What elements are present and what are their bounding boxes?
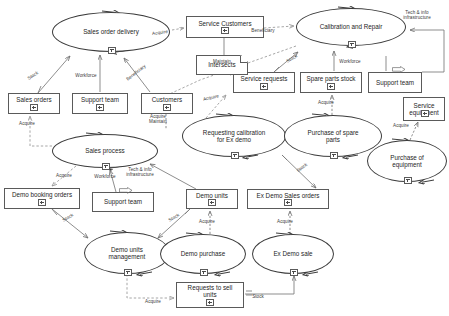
process-label: Calibration and Repair <box>314 23 389 30</box>
object-support-team-service[interactable]: Support team <box>368 72 422 93</box>
expand-marker[interactable] <box>421 110 429 117</box>
object-demo-booking-orders[interactable]: Demo booking orders <box>4 188 80 209</box>
expand-marker[interactable] <box>327 83 335 90</box>
expand-marker[interactable] <box>200 269 208 276</box>
expand-marker[interactable] <box>404 177 412 184</box>
note-intersects[interactable]: Intersects <box>196 55 248 75</box>
right-arrow-icon <box>119 180 133 187</box>
expand-marker[interactable] <box>290 269 298 276</box>
edge-label-acquire: Acquire <box>270 219 300 224</box>
expand-marker[interactable] <box>260 83 268 90</box>
process-purchase-of-spare-parts[interactable]: Purchase of spare parts <box>284 115 382 157</box>
expand-marker[interactable] <box>284 199 292 206</box>
expand-marker[interactable] <box>124 269 132 276</box>
expand-marker[interactable] <box>163 104 171 111</box>
expand-marker[interactable] <box>108 47 116 54</box>
process-label: Sales order delivery <box>77 28 145 35</box>
expand-marker[interactable] <box>38 199 46 206</box>
expand-marker[interactable] <box>102 163 110 170</box>
right-arrow-icon <box>392 59 406 66</box>
note-label: Intersects <box>208 61 235 68</box>
process-label: Sales process <box>79 147 131 154</box>
object-label: Spare parts stock <box>307 75 356 82</box>
expand-marker[interactable] <box>208 199 216 206</box>
process-demo-purchase[interactable]: Demo purchase <box>160 234 246 274</box>
object-support-team-sales[interactable]: Support team <box>72 93 128 114</box>
process-label: Demo purchase <box>175 250 231 257</box>
object-spare-parts-stock[interactable]: Spare parts stock <box>300 72 362 93</box>
edge-label-workforce: Workforce <box>330 59 370 64</box>
object-label: Support team <box>376 79 414 86</box>
object-label: Service Customers <box>198 20 251 27</box>
object-label: Sales orders <box>16 96 51 103</box>
object-label: Ex Demo Sales orders <box>257 192 320 199</box>
object-service-equipment[interactable]: Service equipment <box>403 97 445 121</box>
edge-label-beneficiary: Beneficiary <box>244 28 282 33</box>
object-requests-to-sell-units[interactable]: Requests to sell units <box>176 282 244 308</box>
edge-label-acquire: Acquire <box>386 123 416 128</box>
process-label: Purchase of spare parts <box>301 129 364 144</box>
object-label: Support team <box>104 198 142 205</box>
edge-label-stock: Stock <box>244 294 272 299</box>
object-label: Support team <box>81 96 119 103</box>
expand-marker[interactable] <box>348 41 356 48</box>
process-calibration-and-repair[interactable]: Calibration and Repair <box>296 8 406 46</box>
process-label: Ex Demo sale <box>267 250 318 257</box>
edge-label-acquire: Acquire <box>12 121 42 126</box>
edge-label-acquire: Acquire <box>138 299 168 304</box>
process-requesting-calibration[interactable]: Requesting calibration for Ex demo <box>182 115 286 157</box>
edge-label-acquire: Acquire <box>311 100 341 105</box>
object-ex-demo-sales-orders[interactable]: Ex Demo Sales orders <box>247 189 329 209</box>
process-sales-process[interactable]: Sales process <box>52 134 158 168</box>
process-ex-demo-sale[interactable]: Ex Demo sale <box>252 234 334 274</box>
expand-marker[interactable] <box>231 152 239 159</box>
object-customers[interactable]: Customers <box>141 93 193 114</box>
object-label: Demo units <box>196 192 228 199</box>
object-demo-units[interactable]: Demo units <box>186 189 238 209</box>
object-sales-orders[interactable]: Sales orders <box>8 93 60 114</box>
edge-label-acquire: Acquire <box>192 219 222 224</box>
edge-label-tech-info-infrastructure: Tech & info infrastructure <box>394 10 440 20</box>
expand-marker[interactable] <box>30 104 38 111</box>
object-support-team-demo[interactable]: Support team <box>92 192 154 212</box>
object-service-requests[interactable]: Service requests <box>233 72 295 93</box>
expand-marker[interactable] <box>96 104 104 111</box>
edge-label-acquire: Acquire <box>49 173 79 178</box>
expand-marker[interactable] <box>330 152 338 159</box>
process-demo-units-management[interactable]: Demo units management <box>84 232 170 274</box>
process-label: Requesting calibration for Ex demo <box>197 129 271 144</box>
process-label: Purchase of equipment <box>384 154 430 169</box>
edge-label-acquire-maintain: Acquire Maintain <box>141 114 175 124</box>
object-service-customers[interactable]: Service Customers <box>186 16 264 38</box>
object-label: Customers <box>152 96 182 103</box>
edge-label-tech-info-infrastructure: Tech & info infrastructure <box>118 167 162 177</box>
object-label: Demo booking orders <box>12 191 72 198</box>
object-label: Requests to sell units <box>188 284 233 298</box>
process-purchase-of-equipment[interactable]: Purchase of equipment <box>367 140 447 182</box>
expand-marker[interactable] <box>221 27 229 34</box>
process-label: Demo units management <box>103 246 152 261</box>
expand-marker[interactable] <box>206 299 214 306</box>
edge-label-workforce: Workforce <box>66 73 106 78</box>
object-label: Service requests <box>241 75 288 82</box>
diagram-canvas: Sales order delivery Calibration and Rep… <box>0 0 449 316</box>
